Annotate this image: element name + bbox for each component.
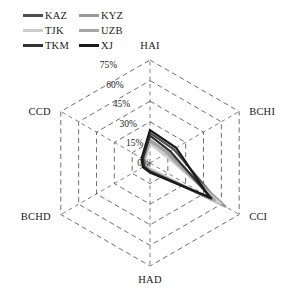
axis-label-bchi: BCHI [249,106,275,117]
tick-label-60: 60% [102,80,124,90]
tick-label-45: 45% [108,99,130,109]
tick-label-0: 0% [128,158,150,168]
radar-chart-figure: KAZ KYZ TJK UZB TKM XJ HAI [0,0,285,305]
axis-label-had: HAD [8,274,286,285]
tick-label-75: 75% [95,60,117,70]
axis-label-cci: CCI [249,211,267,222]
tick-label-30: 30% [115,119,137,129]
spoke-bchd [61,163,150,215]
radar-series-group [142,130,226,207]
radar-plot-area: HAI BCHI CCI HAD BCHD CCD 0%15%30%45%60%… [0,0,285,305]
tick-label-15: 15% [121,138,143,148]
axis-label-hai: HAI [8,40,286,51]
axis-label-bchd: BCHD [0,211,51,222]
axis-label-ccd: CCD [0,106,51,117]
radar-spokes [61,60,239,266]
